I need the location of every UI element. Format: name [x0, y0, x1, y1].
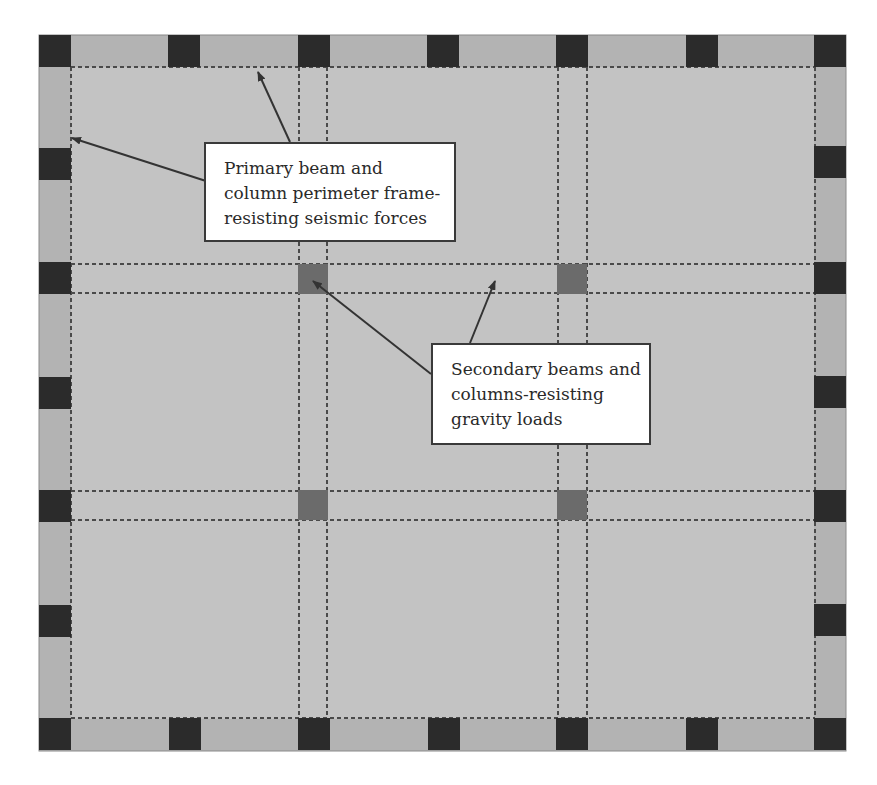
perimeter-column: [39, 35, 71, 67]
perimeter-column: [39, 490, 71, 522]
callout-primary-beam-frame: Primary beam and column perimeter frame-…: [204, 142, 456, 242]
perimeter-column: [298, 35, 330, 67]
perimeter-column: [39, 262, 71, 294]
perimeter-column: [39, 148, 71, 180]
callout-line: Secondary beams and: [451, 357, 649, 382]
perimeter-column: [814, 262, 846, 294]
perimeter-column: [298, 718, 330, 750]
perimeter-column: [814, 376, 846, 408]
perimeter-column: [427, 35, 459, 67]
callout-line: resisting seismic forces: [224, 206, 454, 231]
perimeter-column: [39, 377, 71, 409]
callout-line: gravity loads: [451, 407, 649, 432]
perimeter-column: [39, 718, 71, 750]
perimeter-column: [556, 718, 588, 750]
callout-secondary-beams: Secondary beams and columns-resisting gr…: [431, 343, 651, 445]
perimeter-column: [556, 35, 588, 67]
perimeter-column: [428, 718, 460, 750]
perimeter-column: [168, 35, 200, 67]
perimeter-column: [814, 146, 846, 178]
interior-column: [557, 490, 587, 520]
perimeter-column: [39, 605, 71, 637]
perimeter-column: [686, 35, 718, 67]
structural-floor-plan-diagram: Primary beam and column perimeter frame-…: [0, 0, 877, 785]
perimeter-column: [814, 35, 846, 67]
interior-column: [298, 490, 328, 520]
callout-line: columns-resisting: [451, 382, 649, 407]
perimeter-column: [814, 604, 846, 636]
callout-line: Primary beam and: [224, 156, 454, 181]
perimeter-column: [169, 718, 201, 750]
perimeter-column: [814, 490, 846, 522]
callout-line: column perimeter frame-: [224, 181, 454, 206]
perimeter-column: [814, 718, 846, 750]
perimeter-column: [686, 718, 718, 750]
interior-column: [557, 264, 587, 294]
